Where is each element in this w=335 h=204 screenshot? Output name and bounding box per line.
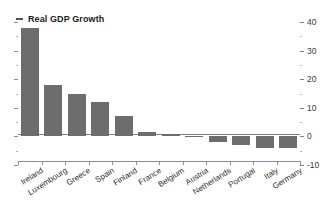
plot-area [18, 22, 300, 165]
x-axis-tick [277, 161, 278, 165]
x-axis-tick [42, 161, 43, 165]
bar-greece [65, 22, 89, 165]
y-axis-tick-label: 40 [307, 18, 316, 27]
bar-portugal [230, 22, 254, 165]
bar-austria [183, 22, 207, 165]
x-axis-tick [230, 161, 231, 165]
x-axis-tick [206, 161, 207, 165]
bar-rect [162, 134, 180, 136]
bar-rect [44, 85, 62, 136]
x-axis-tick [253, 161, 254, 165]
y-axis-tick-40: 40 [300, 18, 316, 27]
y-axis-minor-tick [300, 61, 302, 70]
bar-series [18, 22, 300, 165]
x-axis-label-greece: Greece [65, 166, 92, 188]
bar-rect [232, 136, 250, 145]
y-axis-tick-label: 30 [307, 47, 316, 56]
bar-belgium [159, 22, 183, 165]
x-axis-label-belgium: Belgium [157, 166, 186, 189]
tick-dash-icon [300, 36, 302, 37]
bar-netherlands [206, 22, 230, 165]
bar-rect [256, 136, 274, 147]
x-axis-tick [89, 161, 90, 165]
bar-rect [68, 94, 86, 137]
x-axis-label-finland: Finland [112, 166, 139, 188]
x-axis-tick [183, 161, 184, 165]
bar-rect [138, 132, 156, 137]
y-axis-minor-tick [300, 118, 302, 127]
bar-rect [21, 28, 39, 136]
bar-rect [279, 136, 297, 147]
right-value-axis: 403020100-10 [300, 22, 335, 165]
y-axis-tick-label: 10 [307, 104, 316, 113]
x-axis-tick [136, 161, 137, 165]
y-axis-tick-label: 0 [307, 132, 312, 141]
bar-spain [89, 22, 113, 165]
legend-dash-icon [16, 18, 23, 20]
bar-rect [115, 116, 133, 136]
bar-finland [112, 22, 136, 165]
x-axis-tick [18, 161, 19, 165]
tick-dash-icon [300, 122, 302, 123]
y-axis-tick-10: 10 [300, 104, 316, 113]
tick-dash-icon [300, 65, 302, 66]
tick-dash-icon [300, 79, 304, 80]
tick-dash-icon [300, 151, 302, 152]
y-axis-minor-tick [300, 147, 302, 156]
tick-dash-icon [300, 94, 302, 95]
y-axis-tick-label: 20 [307, 75, 316, 84]
bar-rect [185, 136, 203, 137]
tick-dash-icon [300, 165, 304, 166]
x-axis-tick [65, 161, 66, 165]
y-axis-minor-tick [300, 32, 302, 41]
bar-france [136, 22, 160, 165]
y-axis-tick-30: 30 [300, 47, 316, 56]
x-axis-tick [159, 161, 160, 165]
tick-dash-icon [300, 51, 304, 52]
x-axis-tick [300, 161, 301, 165]
bar-germany [277, 22, 301, 165]
bar-rect [209, 136, 227, 142]
y-axis-tick--10: -10 [300, 161, 319, 170]
y-axis-minor-tick [300, 90, 302, 99]
x-axis-tick [112, 161, 113, 165]
bar-chart: Real GDP Growth 403020100-10 IrelandLuxe… [0, 0, 335, 204]
bar-luxembourg [42, 22, 66, 165]
bar-rect [91, 102, 109, 137]
tick-dash-icon [300, 108, 304, 109]
tick-dash-icon [300, 22, 304, 23]
x-axis-labels: IrelandLuxembourgGreeceSpainFinlandFranc… [18, 166, 300, 204]
bar-ireland [18, 22, 42, 165]
x-axis-label-portugal: Portugal [227, 166, 257, 189]
bar-italy [253, 22, 277, 165]
y-axis-tick-20: 20 [300, 75, 316, 84]
tick-dash-icon [300, 136, 304, 137]
y-axis-tick-label: -10 [307, 161, 319, 170]
y-axis-tick-0: 0 [300, 132, 312, 141]
